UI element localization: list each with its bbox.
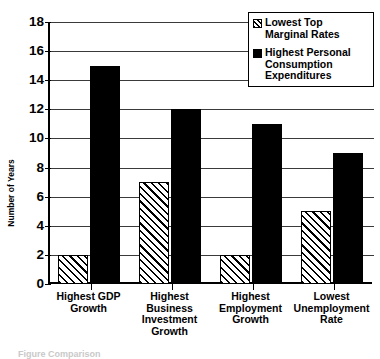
bar <box>171 109 201 284</box>
y-tick-label: 2 <box>10 248 44 262</box>
legend-entry: Highest PersonalConsumptionExpenditures <box>253 47 370 82</box>
legend-label-line: Expenditures <box>265 70 351 82</box>
y-tick-label: 8 <box>10 161 44 175</box>
x-category-label-line: Lowest <box>291 291 372 303</box>
x-category-label: HighestEmploymentGrowth <box>210 291 291 326</box>
y-tick-label: 14 <box>10 73 44 87</box>
legend-swatch-icon <box>253 49 262 58</box>
x-category-label-line: Highest <box>129 291 210 303</box>
legend-label-line: Lowest Top <box>265 17 340 29</box>
chart-legend: Lowest TopMarginal RatesHighest Personal… <box>248 12 374 87</box>
y-tick-label: 6 <box>10 190 44 204</box>
legend-entry: Lowest TopMarginal Rates <box>253 17 370 40</box>
x-category-label-line: Growth <box>129 326 210 338</box>
x-category-label-line: Highest GDP <box>48 291 129 303</box>
x-category-label-line: Growth <box>48 303 129 315</box>
y-tick-label: 18 <box>10 15 44 29</box>
y-tick-label: 12 <box>10 103 44 117</box>
x-category-label: Highest GDPGrowth <box>48 291 129 314</box>
y-tick-mark <box>45 284 51 285</box>
legend-label: Lowest TopMarginal Rates <box>265 17 340 40</box>
legend-label-line: Marginal Rates <box>265 29 340 41</box>
bar <box>139 182 169 284</box>
y-axis-tick-labels: 024681012141618 <box>10 22 44 284</box>
figure-caption: Figure Comparison <box>18 349 101 359</box>
bar <box>90 66 120 284</box>
x-category-label: HighestBusinessInvestmentGrowth <box>129 291 210 337</box>
bar <box>252 124 282 284</box>
y-tick-label: 0 <box>10 277 44 291</box>
y-tick-label: 16 <box>10 44 44 58</box>
x-category-label-line: Highest <box>210 291 291 303</box>
bar <box>220 255 250 284</box>
legend-swatch-icon <box>253 19 262 28</box>
x-category-label-line: Rate <box>291 314 372 326</box>
legend-label: Highest PersonalConsumptionExpenditures <box>265 47 351 82</box>
bar-chart-figure: Number of Years 024681012141618 Highest … <box>0 0 380 359</box>
x-axis-category-labels: Highest GDPGrowthHighestBusinessInvestme… <box>48 291 372 353</box>
bar <box>301 211 331 284</box>
bar <box>58 255 88 284</box>
y-tick-label: 4 <box>10 219 44 233</box>
bar <box>333 153 363 284</box>
x-category-label: LowestUnemploymentRate <box>291 291 372 326</box>
x-category-label-line: Growth <box>210 314 291 326</box>
y-tick-label: 10 <box>10 132 44 146</box>
